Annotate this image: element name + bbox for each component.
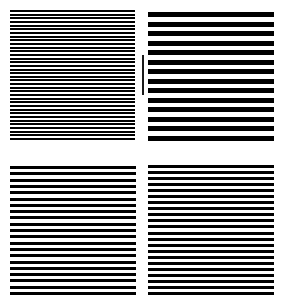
grating-line (148, 268, 274, 271)
grating-line (10, 32, 135, 34)
grating-line (148, 88, 274, 93)
grating-line (148, 165, 274, 168)
grating-line (148, 207, 274, 210)
grating-top-left (10, 10, 135, 140)
grating-line (10, 273, 136, 276)
grating-line (148, 219, 274, 222)
grating-line (148, 41, 274, 46)
grating-line (10, 179, 136, 182)
grating-line (10, 248, 136, 251)
grating-line (10, 134, 135, 136)
grating-line (10, 87, 135, 89)
grating-line (10, 72, 135, 74)
grating-line (10, 223, 136, 226)
grating-line (10, 210, 136, 213)
grating-line (148, 50, 274, 55)
grating-line (10, 254, 136, 257)
grating-line (148, 136, 274, 141)
grating-line (148, 22, 274, 27)
grating-line (10, 261, 136, 264)
grating-line (148, 256, 274, 259)
grating-line (10, 286, 136, 289)
grating-line (148, 292, 274, 295)
grating-line (10, 17, 135, 19)
grating-line (148, 177, 274, 180)
grating-line (10, 267, 136, 270)
grating-line (10, 58, 135, 60)
grating-line (148, 262, 274, 265)
grating-line (10, 191, 136, 194)
grating-line (10, 83, 135, 85)
grating-line (10, 242, 136, 245)
grating-line (148, 183, 274, 186)
grating-line (10, 229, 136, 232)
grating-line (10, 120, 135, 122)
grating-line (10, 28, 135, 30)
grating-line (148, 225, 274, 228)
grating-line (10, 105, 135, 107)
grating-line (148, 250, 274, 253)
grating-line (148, 79, 274, 84)
grating-line (10, 10, 135, 12)
grating-line (148, 171, 274, 174)
grating-line (10, 54, 135, 56)
grating-line (148, 60, 274, 65)
grating-line (10, 131, 135, 133)
grating-line (148, 31, 274, 36)
grating-line (10, 39, 135, 41)
grating-line (148, 107, 274, 112)
grating-top-right (148, 12, 274, 141)
grating-line (10, 47, 135, 49)
grating-line (10, 50, 135, 52)
grating-line (10, 21, 135, 23)
grating-line (10, 279, 136, 282)
grating-line (10, 98, 135, 100)
grating-line (10, 94, 135, 96)
grating-line (148, 195, 274, 198)
grating-line (10, 235, 136, 238)
grating-line (148, 126, 274, 131)
grating-line (148, 69, 274, 74)
grating-line (148, 244, 274, 247)
grating-line (148, 189, 274, 192)
grating-line (10, 43, 135, 45)
grating-line (10, 25, 135, 27)
grating-line (10, 61, 135, 63)
grating-line (148, 117, 274, 122)
grating-line (148, 201, 274, 204)
grating-line (10, 138, 135, 140)
grating-line (10, 204, 136, 207)
grating-bottom-right (148, 165, 274, 295)
grating-line (148, 98, 274, 103)
grating-line (148, 238, 274, 241)
grating-line (10, 198, 136, 201)
grating-line (10, 76, 135, 78)
grating-line (10, 172, 136, 175)
grating-line (10, 216, 136, 219)
grating-line (10, 14, 135, 16)
grating-line (148, 280, 274, 283)
vertical-marker-bar (142, 55, 144, 95)
grating-line (10, 116, 135, 118)
grating-line (10, 101, 135, 103)
grating-line (10, 36, 135, 38)
grating-line (10, 112, 135, 114)
grating-line (10, 65, 135, 67)
grating-line (148, 12, 274, 17)
grating-line (10, 109, 135, 111)
grating-line (10, 292, 136, 295)
grating-line (148, 274, 274, 277)
grating-line (10, 123, 135, 125)
grating-line (10, 185, 136, 188)
grating-line (148, 286, 274, 289)
grating-line (148, 232, 274, 235)
grating-bottom-left (10, 166, 136, 295)
grating-line (10, 127, 135, 129)
grating-line (10, 90, 135, 92)
grating-line (10, 69, 135, 71)
grating-line (10, 79, 135, 81)
grating-line (10, 166, 136, 169)
grating-line (148, 213, 274, 216)
